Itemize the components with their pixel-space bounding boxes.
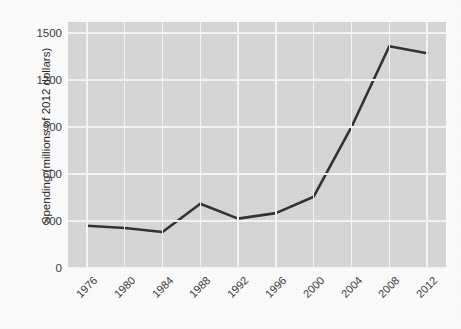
line-chart: Spending (millions of 2012 dollars) 0300… <box>0 0 461 329</box>
x-axis-tick-labels: 1976198019841988199219962000200420082012 <box>68 268 446 328</box>
x-tick-label: 2012 <box>410 274 440 304</box>
data-series-line <box>87 46 427 232</box>
gridline-vertical <box>86 22 87 268</box>
y-tick-label: 1500 <box>24 27 62 39</box>
gridline-vertical <box>200 22 201 268</box>
y-axis-tick-labels: 030060090012001500 <box>20 0 62 329</box>
gridline-vertical <box>351 22 352 268</box>
plot-panel <box>68 22 446 268</box>
y-tick-label: 900 <box>24 121 62 133</box>
gridline-vertical <box>275 22 276 268</box>
gridline-vertical <box>124 22 125 268</box>
y-tick-label: 0 <box>24 262 62 274</box>
y-tick-label: 1200 <box>24 74 62 86</box>
x-tick-label: 2004 <box>334 274 364 304</box>
x-tick-label: 1976 <box>70 274 100 304</box>
gridline-vertical <box>237 22 238 268</box>
x-tick-label: 1992 <box>221 274 251 304</box>
y-tick-label: 600 <box>24 168 62 180</box>
y-tick-label: 300 <box>24 215 62 227</box>
x-tick-label: 1988 <box>183 274 213 304</box>
x-tick-label: 1980 <box>107 274 137 304</box>
gridline-vertical <box>426 22 427 268</box>
x-tick-label: 2008 <box>372 274 402 304</box>
x-tick-label: 2000 <box>296 274 326 304</box>
x-tick-label: 1984 <box>145 274 175 304</box>
gridline-vertical <box>389 22 390 268</box>
x-tick-label: 1996 <box>259 274 289 304</box>
gridline-vertical <box>162 22 163 268</box>
gridline-vertical <box>313 22 314 268</box>
